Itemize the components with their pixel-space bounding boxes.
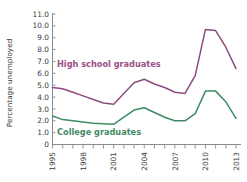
x-tick-label: 2001 bbox=[109, 152, 118, 171]
y-tick-label: 9.0 bbox=[37, 33, 49, 42]
y-tick-label: 3.0 bbox=[37, 105, 49, 114]
y-tick-label: 7.0 bbox=[37, 57, 49, 66]
y-tick-label: 6.0 bbox=[37, 69, 49, 78]
chart-canvas: Percentage unemployed 01.02.03.04.05.06.… bbox=[0, 0, 247, 182]
series-label-college-graduates: College graduates bbox=[57, 127, 141, 137]
x-tick-label: 2007 bbox=[171, 152, 180, 171]
x-axis-tick-marks bbox=[53, 145, 237, 149]
y-tick-label: 11.0 bbox=[33, 10, 50, 19]
y-tick-label: 4.0 bbox=[37, 93, 49, 102]
y-tick-label: 1.0 bbox=[37, 128, 49, 137]
series-line-college-graduates bbox=[53, 91, 237, 124]
y-tick-label: 8.0 bbox=[37, 45, 49, 54]
x-tick-label: 2010 bbox=[201, 152, 210, 171]
x-tick-label: 1998 bbox=[79, 152, 88, 171]
y-axis-tick-labels: 01.02.03.04.05.06.07.08.09.010.011.0 bbox=[33, 10, 50, 150]
y-tick-label: 2.0 bbox=[37, 116, 49, 125]
x-tick-label: 1995 bbox=[48, 152, 57, 171]
unemployment-line-chart: Percentage unemployed 01.02.03.04.05.06.… bbox=[0, 0, 247, 182]
y-tick-label: 5.0 bbox=[37, 81, 49, 90]
x-axis-tick-labels: 1995199820012004200720102013 bbox=[48, 152, 241, 171]
series-label-high-school-graduates: High school graduates bbox=[57, 59, 161, 69]
x-tick-label: 2004 bbox=[140, 152, 149, 171]
y-tick-label: 10.0 bbox=[33, 21, 50, 30]
y-axis-title: Percentage unemployed bbox=[5, 39, 14, 128]
x-tick-label: 2013 bbox=[232, 152, 241, 171]
y-tick-label: 0 bbox=[44, 140, 49, 149]
